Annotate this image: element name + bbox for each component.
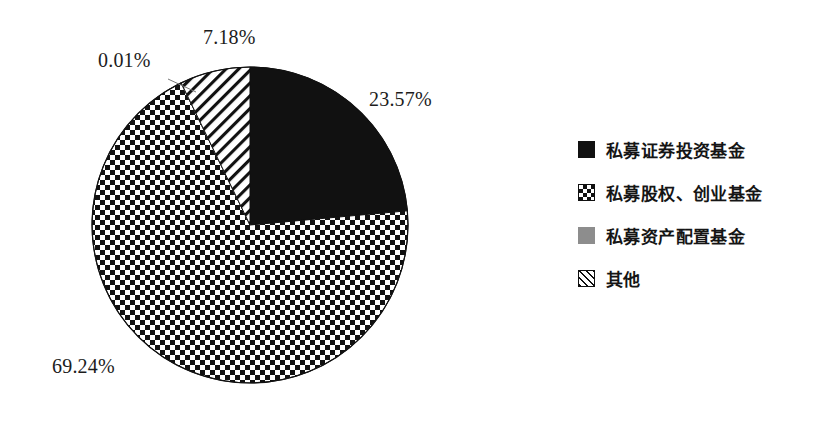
solid-black-square-icon (578, 141, 595, 158)
diagonal-hatch-square-icon (578, 270, 595, 287)
legend-item-private-securities-fund[interactable]: 私募证券投资基金 (578, 128, 828, 171)
legend-item-private-asset-allocation-fund[interactable]: 私募资产配置基金 (578, 214, 828, 257)
legend-item-label: 私募证券投资基金 (606, 137, 745, 162)
chart-legend: 私募证券投资基金 私募股权、创业基金 私募资产配置基金 其他 (578, 128, 828, 300)
legend-item-label: 私募股权、创业基金 (606, 180, 763, 205)
slice-label-allocation-pct: 0.01% (98, 49, 151, 72)
gray-square-icon (578, 227, 595, 244)
slice-label-securities-pct: 23.57% (369, 88, 432, 111)
pie-chart-plot-area: 7.18% 0.01% 23.57% 69.24% (0, 0, 480, 422)
legend-item-label: 其他 (606, 266, 641, 291)
checkerboard-square-icon (578, 184, 595, 201)
legend-item-label: 私募资产配置基金 (606, 223, 745, 248)
pie-chart-figure: 7.18% 0.01% 23.57% 69.24% 私募证券投资基金 私募股权、… (0, 0, 839, 422)
legend-item-private-equity-venture-fund[interactable]: 私募股权、创业基金 (578, 171, 828, 214)
slice-label-other-pct: 7.18% (203, 26, 256, 49)
slice-label-equity-pct: 69.24% (52, 355, 115, 378)
legend-item-other[interactable]: 其他 (578, 257, 828, 300)
pie-slices-group (92, 67, 408, 383)
